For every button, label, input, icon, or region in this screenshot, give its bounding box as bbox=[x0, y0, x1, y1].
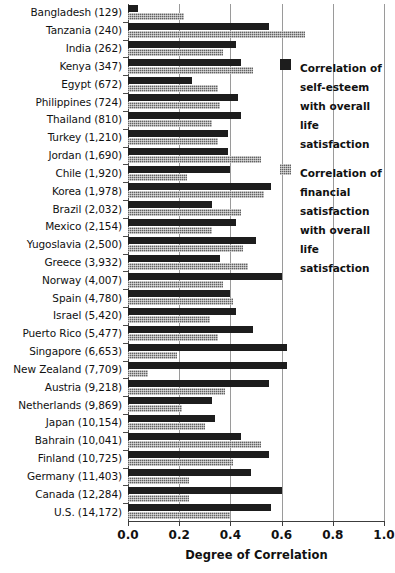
category-tick bbox=[123, 22, 128, 23]
bar-financial-satisfaction bbox=[128, 120, 212, 127]
bar-self-esteem bbox=[128, 397, 212, 404]
bar-self-esteem bbox=[128, 148, 228, 155]
bar-group bbox=[128, 308, 384, 326]
category-tick bbox=[123, 75, 128, 76]
bar-self-esteem bbox=[128, 415, 215, 422]
bar-financial-satisfaction bbox=[128, 209, 241, 216]
bar-group bbox=[128, 326, 384, 344]
bar-self-esteem bbox=[128, 5, 138, 12]
bar-financial-satisfaction bbox=[128, 370, 148, 377]
legend-label-self-esteem: Correlation of self-esteem with overall … bbox=[300, 62, 382, 150]
bar-financial-satisfaction bbox=[128, 263, 248, 270]
bar-self-esteem bbox=[128, 130, 228, 137]
category-label: Turkey (1,210) bbox=[48, 131, 122, 143]
bar-financial-satisfaction bbox=[128, 85, 218, 92]
x-tick bbox=[384, 521, 385, 526]
category-tick bbox=[123, 182, 128, 183]
bar-self-esteem bbox=[128, 433, 241, 440]
bar-group bbox=[128, 380, 384, 398]
category-tick bbox=[123, 111, 128, 112]
bar-financial-satisfaction bbox=[128, 49, 223, 56]
legend-label-financial-satisfaction: Correlation of financial satisfaction wi… bbox=[300, 167, 382, 274]
x-tick-label: 0.6 bbox=[259, 528, 305, 542]
bar-self-esteem bbox=[128, 326, 253, 333]
x-axis-title: Degree of Correlation bbox=[128, 548, 385, 562]
bar-financial-satisfaction bbox=[128, 512, 230, 519]
category-tick bbox=[123, 93, 128, 94]
category-label: Norway (4,007) bbox=[42, 274, 122, 286]
category-label: Canada (12,284) bbox=[35, 488, 122, 500]
category-tick bbox=[123, 289, 128, 290]
bar-self-esteem bbox=[128, 183, 271, 190]
category-label: Chile (1,920) bbox=[55, 167, 122, 179]
bar-group bbox=[128, 397, 384, 415]
category-label: Tanzania (240) bbox=[46, 24, 122, 36]
category-label: Finland (10,725) bbox=[38, 452, 122, 464]
category-tick bbox=[123, 450, 128, 451]
bar-self-esteem bbox=[128, 504, 271, 511]
category-tick bbox=[123, 236, 128, 237]
bar-self-esteem bbox=[128, 94, 238, 101]
bar-self-esteem bbox=[128, 308, 236, 315]
category-tick bbox=[123, 147, 128, 148]
category-tick bbox=[123, 271, 128, 272]
bar-financial-satisfaction bbox=[128, 227, 212, 234]
bar-self-esteem bbox=[128, 273, 282, 280]
category-label: U.S. (14,172) bbox=[54, 506, 122, 518]
bar-self-esteem bbox=[128, 290, 230, 297]
category-tick bbox=[123, 254, 128, 255]
horizontal-bar-chart: Bangladesh (129)Tanzania (240)India (262… bbox=[0, 0, 395, 573]
category-tick bbox=[123, 325, 128, 326]
category-tick bbox=[123, 218, 128, 219]
bar-self-esteem bbox=[128, 237, 256, 244]
category-label: Jordan (1,690) bbox=[48, 149, 122, 161]
category-tick bbox=[123, 485, 128, 486]
bar-group bbox=[128, 23, 384, 41]
category-tick bbox=[123, 40, 128, 41]
bar-financial-satisfaction bbox=[128, 31, 305, 38]
x-tick-label: 0.8 bbox=[310, 528, 356, 542]
x-tick bbox=[333, 521, 334, 526]
bar-self-esteem bbox=[128, 469, 251, 476]
category-label: India (262) bbox=[66, 42, 122, 54]
bar-self-esteem bbox=[128, 166, 230, 173]
bar-financial-satisfaction bbox=[128, 477, 189, 484]
category-label: Greece (3,932) bbox=[44, 256, 122, 268]
legend-item-financial-satisfaction: Correlation of financial satisfaction wi… bbox=[280, 162, 392, 276]
category-label: Korea (1,978) bbox=[52, 185, 122, 197]
x-tick bbox=[282, 521, 283, 526]
x-tick-label: 0.2 bbox=[156, 528, 202, 542]
bar-group bbox=[128, 415, 384, 433]
category-tick bbox=[123, 200, 128, 201]
category-tick bbox=[123, 129, 128, 130]
bar-financial-satisfaction bbox=[128, 138, 218, 145]
x-tick-label: 1.0 bbox=[361, 528, 395, 542]
bar-self-esteem bbox=[128, 451, 269, 458]
chart-legend: Correlation of self-esteem with overall … bbox=[280, 57, 392, 286]
legend-swatch-light-icon bbox=[280, 164, 291, 175]
x-axis-line bbox=[128, 521, 385, 522]
category-label: Mexico (2,154) bbox=[45, 220, 122, 232]
category-label: Kenya (347) bbox=[59, 60, 122, 72]
bar-group bbox=[128, 451, 384, 469]
bar-financial-satisfaction bbox=[128, 388, 225, 395]
bar-financial-satisfaction bbox=[128, 156, 261, 163]
category-label: Netherlands (9,869) bbox=[18, 399, 122, 411]
category-label: Israel (5,420) bbox=[53, 309, 122, 321]
category-label: Puerto Rico (5,477) bbox=[22, 327, 122, 339]
category-axis-labels: Bangladesh (129)Tanzania (240)India (262… bbox=[0, 4, 122, 521]
category-label: Philippines (724) bbox=[36, 96, 122, 108]
bar-self-esteem bbox=[128, 255, 220, 262]
category-label: Austria (9,218) bbox=[45, 381, 122, 393]
category-label: Germany (11,403) bbox=[27, 470, 122, 482]
category-tick bbox=[123, 57, 128, 58]
category-label: Yugoslavia (2,500) bbox=[27, 238, 122, 250]
x-tick-label: 0.0 bbox=[105, 528, 151, 542]
category-tick bbox=[123, 432, 128, 433]
bar-self-esteem bbox=[128, 23, 269, 30]
bar-financial-satisfaction bbox=[128, 102, 220, 109]
category-tick bbox=[123, 343, 128, 344]
bar-group bbox=[128, 487, 384, 505]
bar-self-esteem bbox=[128, 59, 241, 66]
bar-self-esteem bbox=[128, 344, 287, 351]
